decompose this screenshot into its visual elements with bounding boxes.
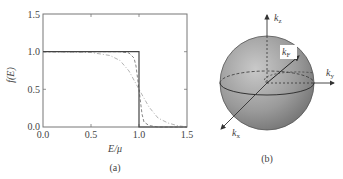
ticks: [43, 14, 187, 127]
ytick-1.0: 1.0: [28, 46, 41, 57]
fermi-sphere: kz ky kx kF (b): [220, 12, 334, 165]
curve-step: [43, 52, 187, 127]
x-axis-label: E/μ: [107, 143, 122, 154]
ky-label: ky: [326, 67, 334, 80]
plot-frame: [43, 14, 187, 127]
xtick-1.5: 1.5: [181, 129, 194, 140]
plot-a: 1.5 1.0 0.5 0.0 0.0 0.5 1.0 1.5 E/μ f(E)…: [5, 9, 193, 174]
xtick-0.5: 0.5: [85, 129, 98, 140]
curve-higher-t: [43, 52, 187, 127]
kz-label: kz: [274, 12, 282, 25]
caption-a: (a): [109, 162, 120, 174]
figure: 1.5 1.0 0.5 0.0 0.0 0.5 1.0 1.5 E/μ f(E)…: [0, 0, 343, 179]
ytick-1.5: 1.5: [28, 9, 41, 20]
kx-label: kx: [232, 127, 240, 140]
xtick-1.0: 1.0: [133, 129, 146, 140]
curve-low-t: [43, 52, 187, 127]
ytick-0.5: 0.5: [28, 84, 41, 95]
xtick-0.0: 0.0: [37, 129, 50, 140]
caption-b: (b): [261, 153, 273, 165]
y-axis-label: f(E): [5, 67, 17, 83]
